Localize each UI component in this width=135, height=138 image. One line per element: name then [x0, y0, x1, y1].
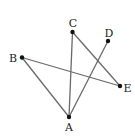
point-a-label: A — [64, 121, 74, 134]
point-a-dot — [67, 115, 71, 119]
point-d-label: D — [105, 27, 114, 40]
segment-da — [69, 41, 108, 117]
point-c-dot — [70, 30, 74, 34]
point-c-label: C — [69, 17, 77, 30]
point-b-label: B — [9, 52, 17, 65]
segment-ba — [22, 58, 69, 118]
point-e-dot — [118, 84, 122, 88]
segment-ca — [69, 32, 73, 117]
diagram-svg: ABCDE — [0, 0, 135, 138]
segment-ce — [73, 32, 121, 86]
point-e-label: E — [123, 82, 131, 95]
point-b-dot — [20, 55, 24, 59]
segments-group — [22, 32, 120, 117]
geometry-diagram: ABCDE — [0, 0, 135, 138]
